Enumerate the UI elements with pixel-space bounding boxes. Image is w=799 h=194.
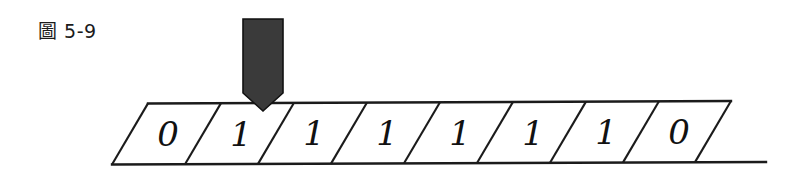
tape-cell-digit: 1: [376, 113, 398, 153]
cell-divider: [550, 102, 586, 163]
tape-cell-digit: 0: [668, 112, 690, 152]
tape-cell-dividers: [112, 101, 731, 165]
tape-cell-digit: 1: [522, 113, 544, 153]
cell-divider: [404, 102, 440, 163]
tape-bottom-edge: [112, 162, 766, 165]
cell-divider: [331, 103, 367, 164]
tape-cell-digit: 1: [303, 113, 325, 153]
cell-divider: [258, 103, 294, 164]
cell-divider: [112, 103, 148, 164]
tape-cell-digit: 1: [595, 112, 617, 152]
tape-cell-digit: 0: [157, 114, 179, 154]
cell-divider: [477, 102, 513, 163]
tape-cell-values: 0 1 1 1 1 1 1 0: [157, 112, 690, 154]
cell-divider: [695, 101, 731, 162]
cell-divider: [623, 101, 659, 162]
figure-container: 圖 5-9 0 1 1 1 1 1 1 0: [0, 0, 799, 194]
tape-cell-digit: 1: [449, 113, 471, 153]
cell-divider: [185, 103, 221, 164]
read-write-head-icon: [243, 19, 283, 111]
tape-diagram: 0 1 1 1 1 1 1 0: [0, 0, 799, 194]
tape-cell-digit: 1: [230, 114, 252, 154]
